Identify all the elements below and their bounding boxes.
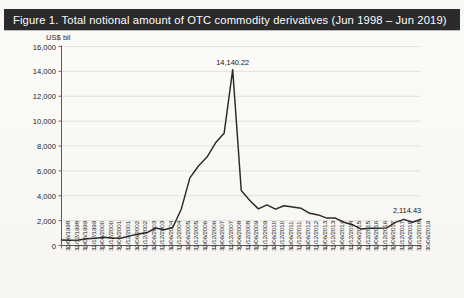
x-axis-tick-label: 30/06/2010 xyxy=(270,221,277,251)
x-axis-tick-label: 31/12/2001 xyxy=(124,221,131,251)
x-axis-tick-label: 31/12/2015 xyxy=(364,221,371,251)
x-axis-tick-label: 31/12/2005 xyxy=(192,221,199,251)
x-axis-tick-label: 31/12/2014 xyxy=(347,221,354,251)
x-axis-tick-label: 31/12/1999 xyxy=(90,221,97,251)
x-axis-tick-label: 31/12/2016 xyxy=(381,221,388,251)
x-axis-tick-label: 31/12/2012 xyxy=(312,221,319,251)
x-axis-tick-label: 31/12/2004 xyxy=(175,221,182,251)
x-axis-tick-label: 30/06/2015 xyxy=(355,221,362,251)
x-axis-tick-label: 31/12/2018 xyxy=(415,221,422,251)
x-axis-tick-label: 30/06/2014 xyxy=(338,221,345,251)
x-axis-tick-label: 30/06/2007 xyxy=(218,221,225,251)
x-axis-tick-label: 30/06/2018 xyxy=(406,221,413,251)
x-axis-tick-label: 31/12/1998 xyxy=(73,221,80,251)
x-axis-tick-label: 31/12/2008 xyxy=(244,221,251,251)
x-axis-tick-label: 30/06/2011 xyxy=(287,221,294,251)
x-axis-tick-label: 30/06/2016 xyxy=(372,221,379,251)
x-axis-tick-label: 31/12/2006 xyxy=(210,221,217,251)
x-axis-tick-label: 30/06/2001 xyxy=(115,221,122,251)
x-axis-tick-label: 31/12/2013 xyxy=(329,221,336,251)
x-axis-tick-label: 30/06/1999 xyxy=(81,221,88,251)
x-axis-tick-label: 30/06/2004 xyxy=(167,221,174,251)
x-axis-tick-label: 30/06/2012 xyxy=(304,221,311,251)
x-axis-tick-label: 30/06/2008 xyxy=(235,221,242,251)
x-axis-tick-label: 31/12/2002 xyxy=(141,221,148,251)
x-axis-tick-label: 30/06/2013 xyxy=(321,221,328,251)
x-axis-tick-label: 30/06/2000 xyxy=(98,221,105,251)
x-axis-tick-label: 30/06/2009 xyxy=(252,221,259,251)
x-axis-tick-label: 30/06/2019 xyxy=(424,221,431,251)
x-axis-tick-label: 31/12/2010 xyxy=(278,221,285,251)
data-point-annotation: 14,140.22 xyxy=(216,58,249,67)
x-axis-tick-label: 31/12/2017 xyxy=(398,221,405,251)
x-axis-tick-label: 31/12/2007 xyxy=(227,221,234,251)
x-axis-tick-label: 30/06/2005 xyxy=(184,221,191,251)
data-point-annotation: 2,114.43 xyxy=(393,206,421,215)
x-axis-tick-label: 30/06/2003 xyxy=(150,221,157,251)
x-axis-tick-label: 31/12/2011 xyxy=(295,221,302,251)
x-axis-tick-label: 31/12/2000 xyxy=(107,221,114,251)
chart-plot-area: US$ bil 02,0004,0006,0008,00010,00012,00… xyxy=(0,0,464,298)
x-axis-tick-label: 31/12/2003 xyxy=(158,221,165,251)
x-axis-tick-label: 31/12/2009 xyxy=(261,221,268,251)
x-axis-tick-label: 30/06/1998 xyxy=(64,221,71,251)
x-axis-tick-labels: 30/06/199831/12/199830/06/199931/12/1999… xyxy=(0,0,464,298)
x-axis-tick-label: 30/06/2002 xyxy=(133,221,140,251)
figure-root: Figure 1. Total notional amount of OTC c… xyxy=(0,0,464,298)
x-axis-tick-label: 30/06/2017 xyxy=(389,221,396,251)
x-axis-tick-label: 30/06/2006 xyxy=(201,221,208,251)
